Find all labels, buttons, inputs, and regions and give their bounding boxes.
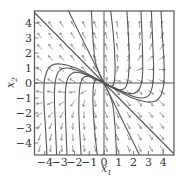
field-arrow-icon [160, 112, 164, 117]
field-arrow-icon [149, 134, 152, 139]
field-arrow-icon [105, 55, 107, 61]
field-arrow-icon [138, 101, 142, 106]
field-arrow-icon [105, 21, 107, 27]
field-arrow-icon [127, 145, 130, 151]
field-arrow-icon [37, 56, 41, 60]
field-arrow-icon [138, 134, 141, 139]
x-tick-label: −3 [51, 156, 67, 169]
field-arrow-icon [60, 112, 63, 118]
field-arrow-icon [94, 33, 96, 39]
y-tick-label: −1 [16, 92, 32, 105]
x-tick-label: 1 [115, 156, 122, 169]
field-arrow-icon [71, 56, 75, 61]
field-arrow-icon [37, 79, 42, 82]
field-arrow-icon [48, 102, 54, 104]
y-tick-label: 0 [25, 77, 32, 90]
field-arrow-icon [117, 21, 118, 27]
trajectory-curve [104, 11, 143, 94]
field-arrow-icon [160, 123, 164, 128]
field-arrow-icon [116, 101, 119, 106]
field-arrow-icon [60, 56, 64, 61]
field-arrow-icon [148, 69, 154, 70]
field-arrow-icon [39, 145, 40, 151]
x-tick-label: −1 [81, 156, 97, 169]
y-axis-label: x2 [4, 77, 19, 88]
field-arrow-icon [160, 134, 164, 139]
field-arrow-icon [38, 45, 42, 50]
x-tick-label: 3 [145, 156, 152, 169]
field-arrow-icon [84, 134, 85, 140]
trajectory-curve [93, 80, 104, 155]
x-tick-label: 4 [160, 156, 167, 169]
field-arrow-icon [127, 101, 131, 106]
field-arrow-icon [60, 44, 64, 49]
field-arrow-icon [138, 123, 141, 128]
field-arrow-icon [48, 91, 54, 92]
field-arrow-icon [60, 22, 63, 27]
field-arrow-icon [149, 112, 153, 117]
field-arrow-icon [49, 45, 53, 50]
field-arrow-icon [149, 44, 152, 50]
field-arrow-icon [95, 100, 96, 106]
field-arrow-icon [83, 145, 84, 151]
field-arrow-icon [105, 44, 107, 50]
field-arrow-icon [149, 146, 152, 151]
field-arrow-icon [139, 44, 140, 50]
y-tick-label: −2 [16, 107, 32, 120]
field-arrow-icon [83, 100, 84, 106]
field-arrow-icon [71, 44, 74, 49]
field-arrow-icon [49, 33, 53, 38]
field-arrow-icon [70, 92, 76, 93]
field-arrow-icon [48, 79, 53, 82]
field-arrow-icon [116, 134, 118, 140]
field-arrow-icon [105, 100, 107, 106]
field-arrow-icon [60, 33, 63, 38]
field-arrow-icon [127, 123, 130, 129]
field-arrow-icon [105, 134, 107, 140]
x-tick-label: 2 [130, 156, 137, 169]
trajectory-curve [65, 72, 104, 155]
field-arrow-icon [94, 145, 96, 151]
y-tick-label: −3 [16, 122, 32, 135]
field-arrow-icon [105, 123, 107, 129]
field-arrow-icon [84, 123, 85, 129]
field-arrow-icon [105, 66, 107, 72]
field-arrow-icon [59, 102, 64, 105]
field-arrow-icon [94, 89, 95, 95]
field-arrow-icon [72, 111, 73, 117]
field-arrow-icon [61, 123, 62, 129]
y-tick-label: 3 [25, 32, 32, 45]
field-arrow-icon [114, 80, 120, 81]
field-arrow-icon [138, 112, 142, 117]
field-arrow-icon [160, 146, 163, 151]
field-arrow-icon [49, 123, 51, 129]
field-arrow-icon [127, 112, 130, 117]
field-arrow-icon [37, 91, 43, 93]
trajectory-curve [79, 76, 104, 155]
field-arrow-icon [83, 33, 86, 39]
field-arrow-icon [38, 134, 40, 140]
field-arrow-icon [94, 22, 96, 28]
field-arrow-icon [117, 44, 118, 50]
field-arrow-icon [83, 22, 86, 28]
field-arrow-icon [59, 92, 65, 93]
field-arrow-icon [105, 112, 107, 118]
field-arrow-icon [70, 79, 75, 82]
field-arrow-icon [105, 145, 107, 151]
field-arrow-icon [117, 33, 118, 39]
y-tick-label: 2 [25, 47, 32, 60]
field-arrow-icon [38, 123, 42, 128]
field-arrow-icon [159, 101, 163, 105]
y-tick-label: 1 [25, 62, 32, 75]
field-arrow-icon [49, 22, 52, 27]
field-arrow-icon [116, 123, 119, 129]
y-tick-label: −4 [16, 137, 32, 150]
field-arrow-icon [59, 79, 64, 82]
field-arrow-icon [105, 33, 107, 39]
field-arrow-icon [94, 111, 95, 117]
field-arrow-icon [138, 145, 141, 151]
field-arrow-icon [82, 56, 85, 61]
field-arrow-icon [150, 33, 151, 39]
field-arrow-icon [148, 56, 153, 60]
field-arrow-icon [49, 56, 53, 61]
